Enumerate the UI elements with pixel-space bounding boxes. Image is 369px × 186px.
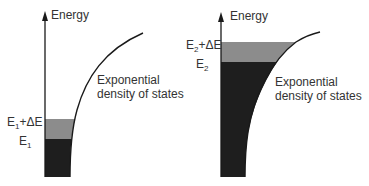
- density-of-states-diagram: Energy E1+ΔE E1 Exponential density of s…: [0, 0, 369, 186]
- energy-band-region: [45, 119, 75, 139]
- dos-curve: [70, 33, 143, 177]
- lower-level-label: E1: [19, 134, 32, 150]
- lower-level-label: E2: [196, 57, 209, 73]
- upper-level-label: E1+ΔE: [7, 115, 43, 131]
- upper-level-label: E2+ΔE: [186, 38, 222, 54]
- panel-left: Energy E1+ΔE E1 Exponential density of s…: [7, 8, 184, 177]
- axis-arrow-icon: [42, 11, 48, 21]
- curve-label-line1: Exponential: [275, 75, 338, 89]
- energy-axis-label: Energy: [51, 8, 89, 22]
- curve-label-line2: density of states: [275, 89, 362, 103]
- curve-label-line1: Exponential: [97, 73, 160, 87]
- curve-label-line2: density of states: [97, 87, 184, 101]
- panel-right: Energy E2+ΔE E2 Exponential density of s…: [186, 9, 362, 177]
- filled-states-region: [221, 62, 277, 177]
- axis-arrow-icon: [218, 12, 224, 22]
- filled-states-region: [45, 139, 72, 177]
- energy-axis-label: Energy: [230, 9, 268, 23]
